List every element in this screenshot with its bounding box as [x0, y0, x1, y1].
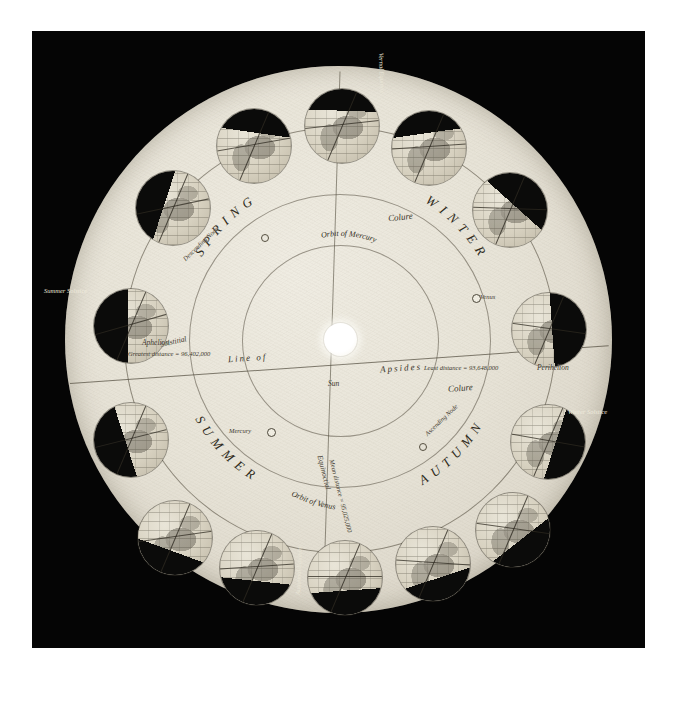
engraving-plate: North Declination of the Sun South Decli… — [32, 31, 645, 648]
venus-symbol-icon — [472, 294, 481, 303]
winter-solstice-label: Winter Solstice — [568, 408, 607, 416]
descending-node-icon — [261, 234, 269, 242]
svg-text:Orbit of Venus: Orbit of Venus — [290, 489, 336, 511]
aphelion-label: Aphelion — [142, 338, 169, 347]
perihelion-distance-value: Least distance = 93,648,000 — [424, 364, 498, 371]
colure-right-label: Colure — [448, 382, 473, 394]
svg-text:Orbit of Mercury: Orbit of Mercury — [320, 229, 378, 244]
aphelion-distance-value: Greatest distance = 96,402,000 — [128, 350, 210, 357]
mercury-label: Mercury — [229, 427, 251, 434]
orbit-of-mercury-label: Orbit of Mercury — [320, 229, 378, 244]
ascending-node-icon — [419, 443, 427, 451]
orbit-of-venus-label: Orbit of Venus — [290, 489, 336, 511]
vernal-equinox-label: Vernal Equinox — [377, 53, 386, 94]
orbit-caption-layer: Orbit of Mercury Orbit of Venus — [32, 31, 645, 648]
perihelion-label: Perihelion — [537, 363, 569, 372]
venus-label: Venus — [480, 293, 495, 300]
mercury-symbol-icon — [267, 428, 276, 437]
summer-solstice-label: Summer Solstice — [44, 287, 87, 295]
